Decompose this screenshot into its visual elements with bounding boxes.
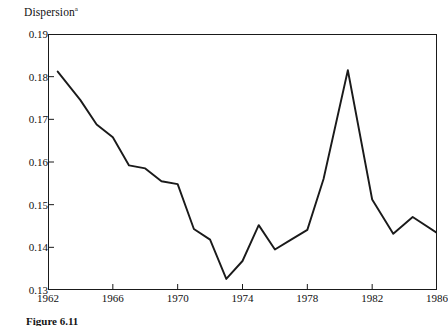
- y-axis-tick-label: 0.14: [4, 241, 48, 253]
- y-axis-tick-label: 0.16: [4, 156, 48, 168]
- y-axis-title-footnote-marker: a: [75, 5, 78, 13]
- y-axis-tick-label: 0.19: [4, 28, 48, 40]
- x-axis-tick-label: 1962: [37, 292, 59, 304]
- line-chart-plot: [48, 34, 437, 290]
- y-axis-tick-labels: 0.130.140.150.160.170.180.19: [0, 0, 48, 326]
- x-axis-tick-label: 1966: [102, 292, 124, 304]
- x-axis-tick-label: 1970: [167, 292, 189, 304]
- x-axis-tick-label: 1986: [426, 292, 448, 304]
- y-axis-tick-label: 0.17: [4, 113, 48, 125]
- x-axis-tick-label: 1974: [232, 292, 254, 304]
- x-axis-tick-label: 1978: [296, 292, 318, 304]
- x-axis-tick-label: 1982: [361, 292, 383, 304]
- y-axis-tick-label: 0.15: [4, 199, 48, 211]
- figure-caption: Figure 6.11: [26, 315, 78, 326]
- x-axis-tick-labels: 1962196619701974197819821986: [0, 292, 446, 312]
- y-axis-tick-label: 0.18: [4, 71, 48, 83]
- dispersion-series-line: [58, 70, 437, 279]
